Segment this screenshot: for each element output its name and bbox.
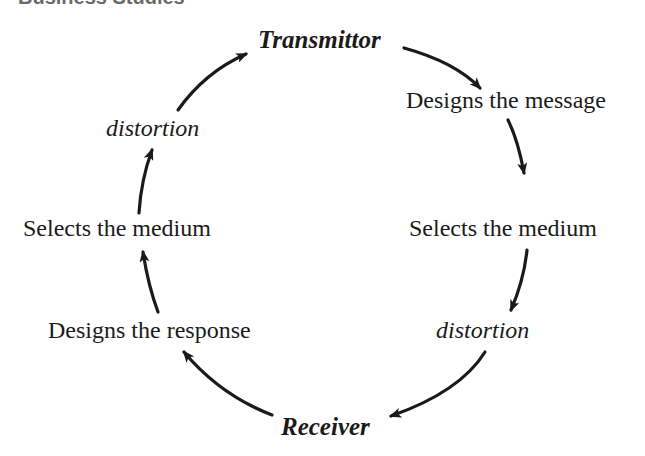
arrow-design-message-to-select-medium [508, 120, 524, 173]
arrow-select-medium-to-distortion [511, 250, 527, 310]
node-selects-the-medium-left: Selects the medium [23, 216, 211, 240]
arrow-distortion-to-receiver [391, 352, 485, 416]
node-designs-the-response: Designs the response [48, 318, 251, 342]
arrow-receiver-to-design-response [184, 352, 272, 415]
arrow-distortion-to-transmittor [178, 54, 246, 110]
node-designs-the-message: Designs the message [406, 88, 606, 112]
arrow-design-response-to-select-medium [143, 252, 158, 312]
arrow-transmittor-to-design-message [404, 48, 480, 88]
arrow-select-medium-to-distortion-left [139, 150, 152, 213]
node-transmittor: Transmittor [258, 27, 381, 52]
node-receiver: Receiver [281, 414, 370, 439]
node-selects-the-medium-right: Selects the medium [409, 216, 597, 240]
node-distortion-left: distortion [106, 116, 199, 140]
node-distortion-right: distortion [436, 318, 529, 342]
